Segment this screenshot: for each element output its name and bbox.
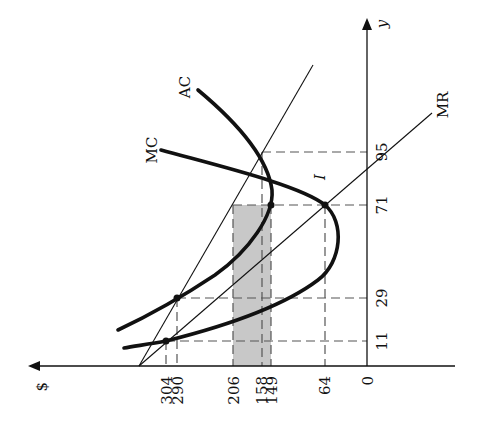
ac-label: AC [176, 76, 194, 99]
svg-text:149: 149 [263, 376, 281, 405]
svg-text:206: 206 [225, 376, 243, 405]
svg-text:64: 64 [316, 376, 334, 395]
svg-text:0: 0 [359, 376, 377, 386]
y-axis-label: y [373, 19, 391, 29]
curves [118, 90, 338, 348]
svg-text:71: 71 [373, 195, 391, 214]
cost-revenue-chart: $ y MC AC MR I 304 290 206 158 149 64 0 … [0, 0, 483, 426]
shaded-region [233, 205, 271, 366]
ray-line [139, 65, 313, 366]
mr-label: MR [434, 91, 452, 118]
region-i-label: I [311, 173, 329, 181]
mc-curve [124, 150, 338, 348]
dollar-tick-labels: 304 290 206 158 149 64 0 [158, 376, 377, 405]
svg-text:11: 11 [373, 331, 391, 350]
dollar-axis-label: $ [33, 382, 51, 392]
svg-text:290: 290 [169, 376, 187, 405]
mc-label: MC [143, 137, 161, 164]
y-tick-labels: 11 29 71 95 [373, 142, 391, 350]
dollar-axis-arrow-icon [28, 361, 40, 371]
svg-text:95: 95 [373, 142, 391, 161]
svg-text:29: 29 [373, 288, 391, 307]
y-axis-arrow-icon [362, 18, 372, 30]
